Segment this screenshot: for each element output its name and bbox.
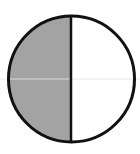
fraction-circle-diagram [0,0,140,154]
